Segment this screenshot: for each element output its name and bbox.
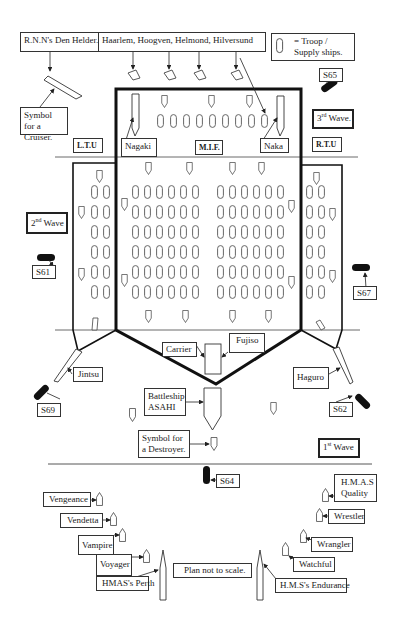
dutch-boat-icons — [128, 70, 243, 80]
label-vampire: Vampire — [78, 535, 114, 555]
submarine-s61-icon — [37, 254, 55, 261]
label-rnn-den-helder: R.N.N's Den Helder. — [20, 32, 99, 52]
mif-center-troopships — [133, 186, 284, 299]
label-s69: S69 — [37, 403, 61, 417]
label-s61: S61 — [32, 265, 56, 279]
naka-cruiser-icon — [277, 96, 284, 136]
label-wrangler: Wrangler — [311, 537, 353, 552]
submarine-s62-icon — [354, 393, 372, 411]
label-s65: S65 — [319, 68, 343, 82]
label-carrier: Carrier — [162, 342, 197, 357]
nagaki-cruiser-icon — [132, 94, 139, 136]
right-flank-troopships — [307, 186, 325, 299]
cruiser-symbol-icon — [44, 76, 82, 99]
label-vengeance: Vengeance — [43, 492, 91, 507]
label-jintsu: Jintsu — [73, 367, 103, 382]
mif-top-troopships — [158, 115, 268, 128]
submarine-s64-icon — [203, 466, 210, 484]
perth-cruiser-icon — [160, 550, 166, 600]
label-haguro: Haguro — [293, 367, 329, 389]
label-plan-note: Plan not to scale. — [173, 563, 252, 578]
label-mif: M.I.F. — [195, 140, 223, 155]
formation-diagram — [0, 0, 398, 624]
label-cruiser-symbol: Symbol for a Cruiser. — [20, 107, 68, 135]
label-s67: S67 — [353, 286, 377, 300]
label-first-wave: 1st Wave — [318, 438, 360, 458]
label-third-wave: 3rd Wave. — [312, 109, 354, 129]
label-naka: Naka — [260, 138, 289, 153]
label-watchful: Watchful — [293, 557, 335, 572]
label-ltu: L.T.U — [73, 138, 103, 153]
label-rtu: R.T.U — [312, 137, 342, 152]
submarine-s67-icon — [352, 264, 370, 271]
label-nagaki: Nagaki — [121, 138, 157, 157]
endurance-cruiser-icon — [257, 550, 263, 600]
label-wrestler: Wrestler — [328, 509, 365, 524]
label-fujiso: Fujiso — [229, 333, 265, 353]
submarine-s69-icon — [33, 384, 51, 402]
label-s62: S62 — [329, 402, 353, 417]
haguro-cruiser-icon — [333, 347, 353, 384]
label-destroyer-symbol: Symbol for a Destroyer. — [138, 430, 190, 458]
label-second-wave: 2nd Wave — [26, 212, 68, 234]
label-s64: S64 — [216, 474, 240, 488]
label-voyager: Voyager — [96, 554, 132, 576]
label-hmas-perth: HMAS's Perth — [96, 576, 149, 591]
troop-ship-legend-icon — [276, 38, 284, 54]
label-vendetta: Vendetta — [60, 513, 103, 528]
mif-box — [116, 89, 301, 384]
carrier-icon — [205, 344, 221, 374]
label-hmas-quality: H.M.A.S Quality — [334, 474, 377, 502]
label-hms-endurance: H.M.S's Endurance — [275, 578, 347, 593]
label-dutch-ships: Haarlem, Hoogven, Helmond, Hilversund — [98, 32, 266, 52]
left-flank-troopships — [92, 186, 110, 299]
battleship-icon — [204, 388, 221, 430]
label-battleship-asahi: Battleship ASAHI — [144, 388, 186, 416]
